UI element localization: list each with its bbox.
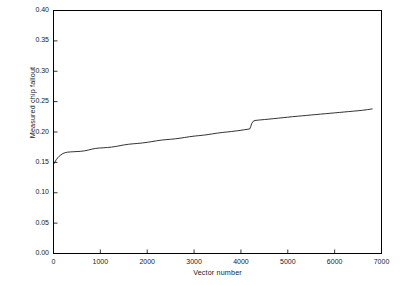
y-tick-label: 0.05 <box>21 219 49 226</box>
y-tick-label: 0.10 <box>21 188 49 195</box>
plot-frame <box>54 11 382 254</box>
x-axis-title: Vector number <box>53 268 382 277</box>
y-tick-label: 0.00 <box>21 249 49 256</box>
x-tick-label: 0 <box>34 258 74 265</box>
x-tick-label: 2000 <box>127 258 167 265</box>
y-tick-label: 0.25 <box>21 97 49 104</box>
y-tick-label: 0.40 <box>21 6 49 13</box>
y-tick-label: 0.35 <box>21 36 49 43</box>
y-tick-label: 0.30 <box>21 67 49 74</box>
x-tick-label: 4000 <box>221 258 261 265</box>
x-tick-label: 5000 <box>268 258 308 265</box>
y-tick-label: 0.20 <box>21 128 49 135</box>
x-tick-label: 7000 <box>362 258 402 265</box>
x-tick-label: 3000 <box>174 258 214 265</box>
chart-figure: Measured chip fallout Vector number 0.00… <box>0 0 409 285</box>
x-tick-label: 1000 <box>80 258 120 265</box>
x-tick-label: 6000 <box>315 258 355 265</box>
y-tick-label: 0.15 <box>21 158 49 165</box>
plot-area <box>0 0 409 285</box>
